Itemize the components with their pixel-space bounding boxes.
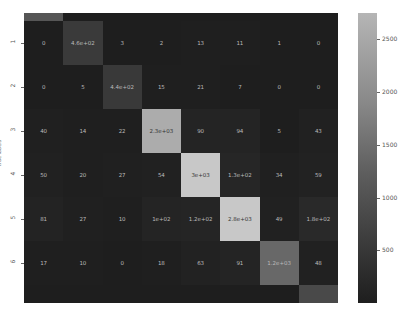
heatmap-cell: 17 (24, 241, 63, 285)
colorbar-tick-mark (377, 250, 380, 251)
heatmap-plot: 04.6e+0232131110054.4e+0215217004014222.… (24, 13, 338, 303)
heatmap-cell: 1e+02 (142, 197, 181, 241)
heatmap-cell: 1.3e+02 (220, 153, 259, 197)
y-tick: 6 (0, 258, 24, 268)
heatmap-partial-cell (63, 285, 102, 303)
heatmap-cell: 7 (220, 65, 259, 109)
heatmap-cell: 10 (103, 197, 142, 241)
y-tick-label: 1 (9, 38, 16, 46)
heatmap-cell: 90 (181, 109, 220, 153)
heatmap-cell: 50 (24, 153, 63, 197)
heatmap-cell: 21 (181, 65, 220, 109)
heatmap-partial-cell (181, 285, 220, 303)
colorbar-tick-label: 2000 (382, 88, 397, 95)
heatmap-cell: 2.8e+03 (220, 197, 259, 241)
y-tick-mark (21, 87, 24, 88)
heatmap-partial-cell (103, 13, 142, 21)
heatmap-cell: 4.6e+02 (63, 21, 102, 65)
heatmap-cell: 81 (24, 197, 63, 241)
heatmap-cell: 40 (24, 109, 63, 153)
heatmap-cell: 3e+03 (181, 153, 220, 197)
heatmap-cell: 5 (63, 65, 102, 109)
colorbar-tick-mark (377, 145, 380, 146)
heatmap-cell: 91 (220, 241, 259, 285)
heatmap-cell: 1.2e+03 (260, 241, 299, 285)
heatmap-cell: 2 (142, 21, 181, 65)
y-tick: 4 (0, 170, 24, 180)
heatmap-partial-cell (220, 13, 259, 21)
y-tick-label: 6 (9, 258, 16, 266)
heatmap-cell: 3 (103, 21, 142, 65)
y-tick: 5 (0, 214, 24, 224)
heatmap-cell: 0 (299, 21, 338, 65)
heatmap-partial-cell (103, 285, 142, 303)
heatmap-cell: 18 (142, 241, 181, 285)
heatmap-cell: 13 (181, 21, 220, 65)
heatmap-cell: 10 (63, 241, 102, 285)
heatmap-cell: 48 (299, 241, 338, 285)
colorbar-tick-label: 1000 (382, 194, 397, 201)
heatmap-cell: 59 (299, 153, 338, 197)
heatmap-cell: 4.4e+02 (103, 65, 142, 109)
heatmap-cell: 15 (142, 65, 181, 109)
y-tick: 2 (0, 82, 24, 92)
heatmap-partial-cell (260, 285, 299, 303)
y-tick-mark (21, 263, 24, 264)
heatmap-cell: 5 (260, 109, 299, 153)
heatmap-cell: 34 (260, 153, 299, 197)
heatmap-partial-cell (142, 13, 181, 21)
heatmap-cell: 63 (181, 241, 220, 285)
heatmap-cell: 2.3e+03 (142, 109, 181, 153)
colorbar-tick-label: 500 (382, 246, 393, 253)
heatmap-partial-cell (181, 13, 220, 21)
heatmap-cell: 20 (63, 153, 102, 197)
heatmap-cell: 54 (142, 153, 181, 197)
heatmap-cell: 0 (103, 241, 142, 285)
y-tick: 3 (0, 126, 24, 136)
heatmap-cell: 1 (260, 21, 299, 65)
heatmap-cell: 27 (103, 153, 142, 197)
heatmap-partial-cell (24, 13, 63, 21)
y-tick-mark (21, 219, 24, 220)
heatmap-cell: 94 (220, 109, 259, 153)
heatmap-cell: 22 (103, 109, 142, 153)
heatmap-partial-cell (220, 285, 259, 303)
heatmap-partial-cell (299, 285, 338, 303)
heatmap-cell: 1.8e+02 (299, 197, 338, 241)
heatmap-partial-cell (260, 13, 299, 21)
heatmap-partial-cell (63, 13, 102, 21)
y-tick: 1 (0, 38, 24, 48)
y-tick-label: 2 (9, 82, 16, 90)
colorbar-tick-label: 1500 (382, 141, 397, 148)
y-axis-label: true labels (0, 140, 2, 167)
heatmap-cell: 49 (260, 197, 299, 241)
y-tick-label: 5 (9, 214, 16, 222)
colorbar-tick-mark (377, 198, 380, 199)
heatmap-cell: 1.2e+02 (181, 197, 220, 241)
y-tick-mark (21, 43, 24, 44)
heatmap-cell: 0 (260, 65, 299, 109)
heatmap-cell: 11 (220, 21, 259, 65)
colorbar-tick-mark (377, 39, 380, 40)
heatmap-cell: 0 (299, 65, 338, 109)
heatmap-partial-cell (299, 13, 338, 21)
colorbar (358, 13, 377, 303)
heatmap-partial-cell (24, 285, 63, 303)
colorbar-tick-label: 2500 (382, 35, 397, 42)
y-tick-label: 4 (9, 170, 16, 178)
y-tick-label: 3 (9, 126, 16, 134)
y-tick-mark (21, 131, 24, 132)
heatmap-cell: 0 (24, 21, 63, 65)
heatmap-cell: 14 (63, 109, 102, 153)
heatmap-cell: 27 (63, 197, 102, 241)
y-tick-mark (21, 175, 24, 176)
colorbar-tick-mark (377, 92, 380, 93)
heatmap-cell: 43 (299, 109, 338, 153)
heatmap-cell: 0 (24, 65, 63, 109)
heatmap-partial-cell (142, 285, 181, 303)
